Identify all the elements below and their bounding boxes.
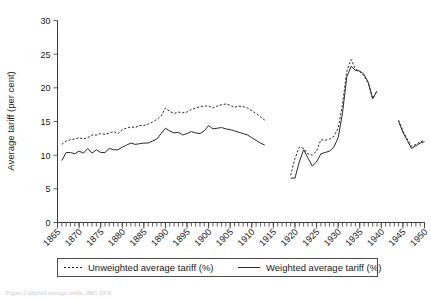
x-tick-label: 1885 (128, 227, 149, 248)
x-tick-label: 1930 (322, 227, 343, 248)
y-tick-label: 30 (40, 16, 50, 26)
y-tick-label: 20 (40, 83, 50, 93)
y-tick-label: 15 (40, 117, 50, 127)
x-tick-label: 1890 (149, 227, 170, 248)
y-tick-label: 0 (45, 218, 50, 228)
x-tick-label: 1870 (63, 227, 84, 248)
x-tick-label: 1905 (214, 227, 235, 248)
tariff-line-chart: 051015202530 Average tariff (per cent) 1… (0, 0, 431, 300)
series-line-weighted (62, 126, 265, 161)
series-line-weighted (291, 66, 377, 178)
chart-legend: Unweighted average tariff (%) Weighted a… (58, 259, 382, 277)
figure-caption: Figure 2 Implied average tariffs, 1865-1… (6, 289, 426, 297)
x-tick-label: 1925 (300, 227, 321, 248)
x-tick-label: 1920 (279, 227, 300, 248)
data-series-group (62, 60, 425, 179)
x-tick-label: 1945 (387, 227, 408, 248)
y-tick-label: 5 (45, 184, 50, 194)
series-line-unweighted (291, 60, 377, 176)
y-tick-group: 051015202530 (40, 16, 57, 228)
y-tick-label: 10 (40, 151, 50, 161)
y-axis-title: Average tariff (per cent) (5, 71, 16, 170)
x-tick-label: 1935 (343, 227, 364, 248)
series-line-unweighted (62, 104, 265, 144)
x-minor-tick-group (58, 223, 425, 227)
x-tick-label: 1950 (408, 227, 429, 248)
x-tick-label: 1865 (41, 227, 62, 248)
y-axis: 051015202530 Average tariff (per cent) (5, 16, 58, 228)
legend-label-weighted: Weighted average tariff (%) (266, 262, 381, 273)
x-tick-label: 1940 (365, 227, 386, 248)
x-axis: 1865187018751880188518901895190019051910… (41, 223, 429, 249)
legend-label-unweighted: Unweighted average tariff (%) (88, 262, 214, 273)
x-tick-label: 1880 (106, 227, 127, 248)
x-tick-label: 1875 (84, 227, 105, 248)
x-tick-group: 1865187018751880188518901895190019051910… (41, 223, 429, 249)
y-tick-label: 25 (40, 50, 50, 60)
x-tick-label: 1895 (171, 227, 192, 248)
x-tick-label: 1900 (192, 227, 213, 248)
x-tick-label: 1910 (235, 227, 256, 248)
x-tick-label: 1915 (257, 227, 278, 248)
series-line-weighted (399, 122, 425, 149)
figure-container: 051015202530 Average tariff (per cent) 1… (0, 0, 431, 300)
